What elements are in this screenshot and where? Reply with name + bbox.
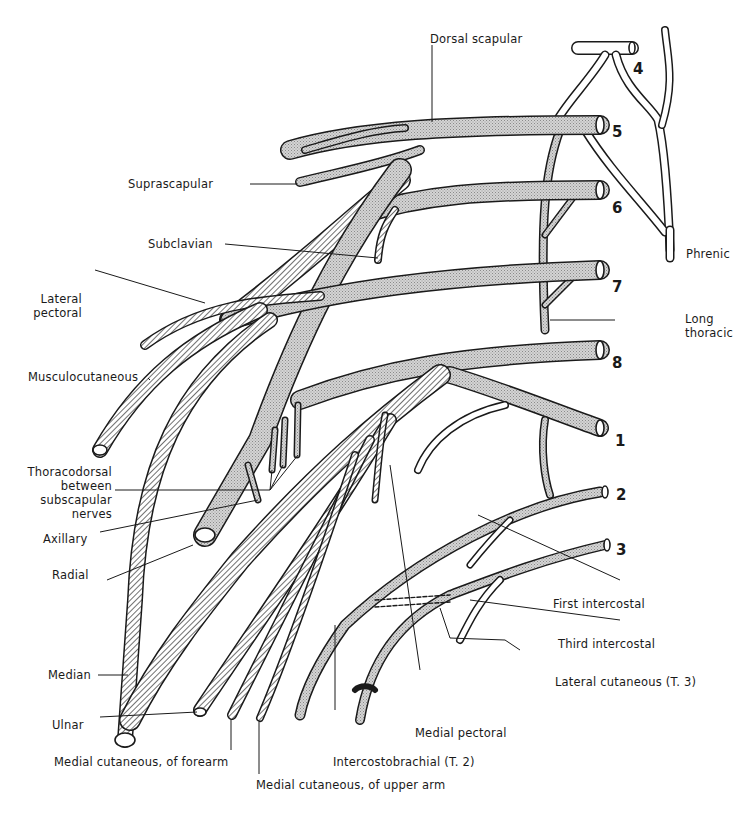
label-radial: Radial <box>52 568 89 582</box>
label-median: Median <box>48 668 91 682</box>
label-suprascapular: Suprascapular <box>128 177 213 191</box>
label-musculocutaneous: Musculocutaneous <box>28 370 138 384</box>
label-thoracodorsal-line1: Thoracodorsal <box>10 465 112 479</box>
label-lateral-pectoral-line2: pectoral <box>30 306 82 320</box>
label-long-thoracic-line1: Long <box>685 312 714 326</box>
label-medial-cutaneous-upper-arm: Medial cutaneous, of upper arm <box>256 778 445 792</box>
brachial-plexus-diagram <box>0 0 755 813</box>
label-ulnar: Ulnar <box>52 718 84 732</box>
root-number-t2: 2 <box>616 486 626 504</box>
label-long-thoracic-line2: thoracic <box>685 326 733 340</box>
label-axillary: Axillary <box>43 532 87 546</box>
cervical-4-and-phrenic <box>555 30 670 258</box>
root-number-c5: 5 <box>612 123 622 141</box>
label-subclavian: Subclavian <box>148 237 213 251</box>
root-number-t3: 3 <box>616 541 626 559</box>
label-first-intercostal: First intercostal <box>553 597 645 611</box>
label-medial-cutaneous-forearm: Medial cutaneous, of forearm <box>54 755 228 769</box>
root-number-c7: 7 <box>612 278 622 296</box>
label-dorsal-scapular: Dorsal scapular <box>430 32 522 46</box>
root-number-c8: 8 <box>612 354 622 372</box>
label-lateral-pectoral-line1: Lateral <box>38 292 82 306</box>
long-thoracic-nerve <box>543 130 575 330</box>
root-number-c6: 6 <box>612 199 622 217</box>
first-intercostal-nerve <box>418 405 505 470</box>
label-thoracodorsal-line4: nerves <box>10 507 112 521</box>
label-intercostobrachial-t2: Intercostobrachial (T. 2) <box>333 755 475 769</box>
label-medial-pectoral: Medial pectoral <box>415 726 507 740</box>
root-number-c4: 4 <box>633 60 643 78</box>
label-third-intercostal: Third intercostal <box>558 637 655 651</box>
label-thoracodorsal-line2: between <box>10 479 112 493</box>
label-thoracodorsal-line3: subscapular <box>10 493 112 507</box>
root-number-t1: 1 <box>615 432 625 450</box>
label-lateral-cutaneous-t3: Lateral cutaneous (T. 3) <box>555 675 696 689</box>
label-phrenic: Phrenic <box>686 247 730 261</box>
